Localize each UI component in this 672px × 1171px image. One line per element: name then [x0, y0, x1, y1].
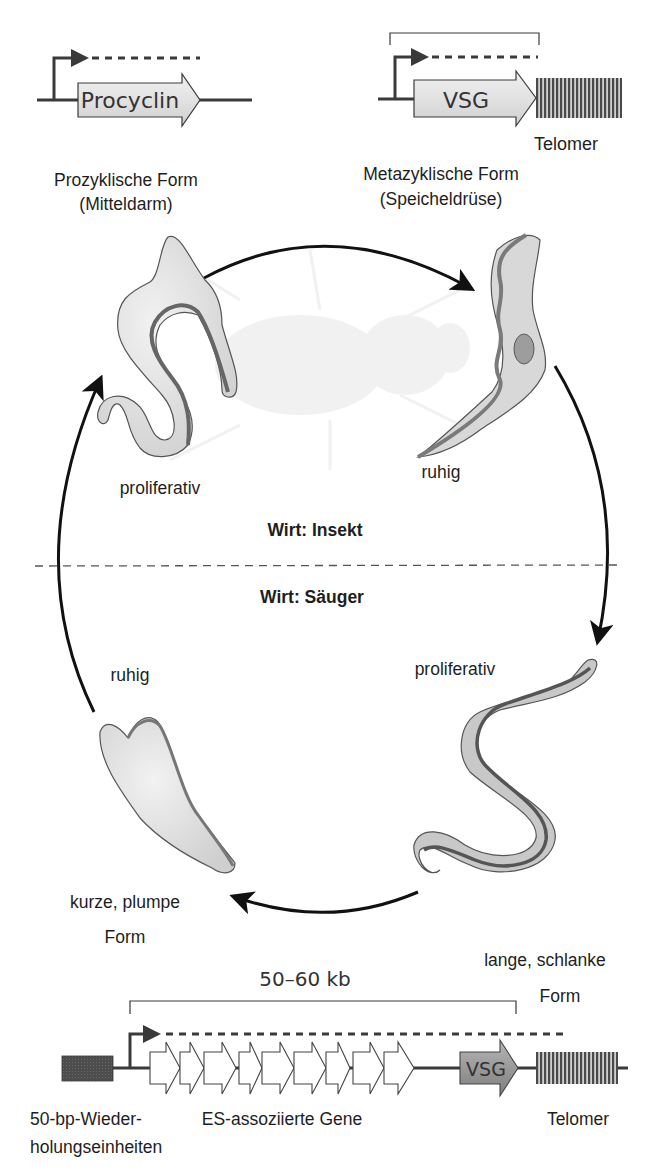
telomere-block — [536, 78, 622, 118]
stumpy-stage-name-line2: Form — [105, 927, 146, 947]
stumpy-state-label: ruhig — [111, 665, 150, 685]
procyclic-trypanosome-icon — [98, 236, 237, 456]
host-divider-dashed-line — [35, 565, 620, 566]
telomere-block — [536, 1052, 618, 1084]
metacyclic-vsg-gene-diagram: VSG Telomer — [378, 33, 622, 154]
procyclic-state-label: proliferativ — [120, 478, 201, 498]
vsg-gene-label: VSG — [443, 88, 489, 113]
metacyclic-stage-name: Metazyklische Form — [363, 164, 519, 184]
promoter-arrow-icon — [54, 58, 80, 100]
bloodstream-expression-site-diagram: 50–60 kb VSG 50-bp-Wieder- holungseinhei… — [30, 967, 628, 1157]
expression-site-bracket — [130, 1001, 516, 1014]
repeat-units-label-line1: 50-bp-Wieder- — [30, 1109, 142, 1129]
slender-stage-name-line2: Form — [540, 986, 581, 1006]
host-mammal-label: Wirt: Säuger — [260, 587, 364, 607]
expression-site-bracket — [390, 33, 539, 45]
short-stumpy-trypanosome-icon — [100, 718, 235, 873]
slender-stage-name-line1: lange, schlanke — [484, 950, 606, 970]
arrow-metacyclic-to-slender — [555, 366, 608, 640]
promoter-arrow-icon — [130, 1034, 152, 1068]
esag-gene-arrows — [150, 1042, 414, 1094]
host-insect-label: Wirt: Insekt — [267, 520, 362, 540]
procyclin-gene-label: Procyclin — [81, 88, 179, 113]
procyclin-gene-diagram: Procyclin — [37, 58, 252, 126]
arrow-stumpy-to-procyclic — [58, 380, 100, 712]
metacyclic-stage-location: (Speicheldrüse) — [380, 189, 503, 209]
telomere-label: Telomer — [547, 1109, 609, 1129]
repeat-units-label-line2: holungseinheiten — [30, 1137, 162, 1157]
procyclic-stage-name: Prozyklische Form — [54, 170, 198, 190]
metacyclic-state-label: ruhig — [422, 462, 461, 482]
long-slender-trypanosome-icon — [414, 659, 597, 872]
life-cycle-figure: Procyclin VSG Telomer Prozyklische Form … — [0, 0, 672, 1171]
telomere-label: Telomer — [534, 134, 598, 154]
arrow-procyclic-to-metacyclic — [204, 246, 470, 288]
slender-state-label: proliferativ — [415, 659, 496, 679]
repeat-units-block — [62, 1056, 113, 1081]
stumpy-stage-name-line1: kurze, plumpe — [70, 892, 180, 912]
expression-site-size-label: 50–60 kb — [259, 967, 351, 991]
arrow-slender-to-stumpy — [235, 892, 418, 912]
procyclic-stage-location: (Mitteldarm) — [79, 194, 172, 214]
vsg-gene-label: VSG — [466, 1058, 506, 1080]
esag-label: ES-assoziierte Gene — [202, 1109, 363, 1129]
